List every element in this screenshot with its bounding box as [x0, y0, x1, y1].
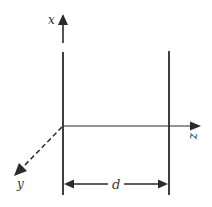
- right-arrow-icon: [158, 180, 168, 189]
- x-axis-arrow-icon: [58, 14, 68, 25]
- z-axis: [63, 122, 201, 131]
- z-axis-arrow-icon: [190, 122, 201, 131]
- y-axis: [14, 127, 62, 176]
- z-axis-label: z: [187, 132, 201, 140]
- separation-label: d: [112, 177, 120, 192]
- parallel-plates-diagram: x z y d: [0, 0, 212, 207]
- x-axis-label: x: [48, 13, 55, 27]
- x-axis: [58, 14, 68, 43]
- y-axis-label: y: [16, 177, 24, 191]
- left-arrow-icon: [64, 180, 74, 189]
